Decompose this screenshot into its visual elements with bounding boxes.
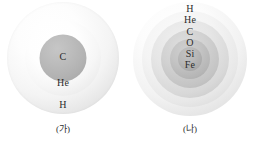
shell-label-hydrogen: H: [127, 4, 253, 14]
shell-label-helium: He: [127, 15, 253, 25]
panel-na: H He C O Si Fe (나): [127, 0, 253, 146]
caption-ga: (가): [0, 124, 126, 135]
shell-label-silicon: Si: [127, 49, 253, 59]
stellar-interior-figure: C He H (가) H He C O Si Fe (나): [0, 0, 253, 146]
shell-label-carbon: C: [0, 52, 126, 62]
shell-label-oxygen: O: [127, 38, 253, 48]
shell-label-carbon: C: [127, 27, 253, 37]
shell-label-helium: He: [0, 78, 126, 88]
shell-label-iron: Fe: [127, 60, 253, 70]
shell-label-hydrogen: H: [0, 100, 126, 110]
panel-ga: C He H (가): [0, 0, 126, 146]
caption-na: (나): [127, 124, 253, 135]
